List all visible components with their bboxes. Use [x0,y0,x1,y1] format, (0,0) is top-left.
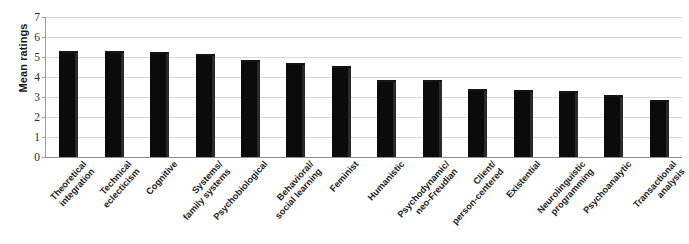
y-tick-label: 1 [34,131,40,143]
bar-bevel-top [423,80,442,82]
bar-bevel [75,51,78,157]
x-axis-labels: TheoreticalintegrationTechnicaleclectici… [46,159,682,244]
bar [514,90,533,157]
bar-bevel [666,100,669,157]
bar-bevel-top [241,60,260,62]
bar [468,89,487,157]
y-tick-label: 7 [34,11,40,23]
bar-bevel [257,60,260,157]
x-tick-label: Technicaleclecticism [93,159,142,210]
x-tick-label: Theoreticalintegration [48,159,96,209]
bar-bevel [575,91,578,157]
bar-chart: Mean ratings 01234567 Theoreticalintegra… [0,0,689,244]
x-tick-label: Existential [504,159,543,200]
bar [332,66,351,157]
plot-area: 01234567 [46,17,682,157]
x-tick-label: Feminist [328,159,361,194]
bar [150,52,169,157]
bar-bevel-top [514,90,533,92]
bar-bevel [530,90,533,157]
bar-bevel-top [604,95,623,97]
x-tick-label-line1: Humanistic [366,159,407,203]
y-tick-label: 0 [34,151,40,163]
bar [604,95,623,157]
bar-bevel-top [286,63,305,65]
y-tick-label: 3 [34,91,40,103]
bar-bevel-top [196,54,215,56]
bar [286,63,305,157]
bar-bevel-top [59,51,78,53]
x-tick-label: Behavioral/social learning [265,159,324,221]
x-tick-label-line1: Existential [504,159,542,200]
bar-bevel [484,89,487,157]
y-tick-label: 4 [34,71,40,83]
y-axis-title: Mean ratings [17,3,29,113]
bar-bevel [393,80,396,157]
x-tick-label-line1: Cognitive [144,159,179,197]
bar-bevel-top [650,100,669,102]
bar-bevel-top [377,80,396,82]
x-tick-label: Transactionalanalysis [632,159,687,217]
x-tick-label-line1: Feminist [328,159,361,194]
bar-series [46,17,682,157]
bar [650,100,669,157]
bar-bevel-top [332,66,351,68]
bar-bevel [212,54,215,157]
x-tick-label: Humanistic [366,159,407,203]
bar [105,51,124,157]
y-tick-label: 5 [34,51,40,63]
bar [423,80,442,157]
y-tick-label: 6 [34,31,40,43]
bar-bevel [620,95,623,157]
bar-bevel-top [559,91,578,93]
bar [59,51,78,157]
bar-bevel [121,51,124,157]
y-tick-mark [42,157,46,158]
bar [241,60,260,157]
x-tick-label: Cognitive [144,159,180,197]
y-tick-label: 2 [34,111,40,123]
bar-bevel-top [105,51,124,53]
bar [559,91,578,157]
bar-bevel [348,66,351,157]
bar-bevel [439,80,442,157]
bar-bevel-top [468,89,487,91]
bar [196,54,215,157]
bar [377,80,396,157]
bar-bevel [302,63,305,157]
bar-bevel-top [150,52,169,54]
x-axis-line [45,157,682,158]
bar-bevel [166,52,169,157]
